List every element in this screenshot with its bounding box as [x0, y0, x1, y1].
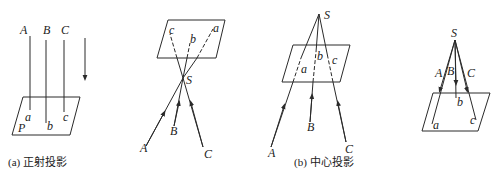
ray-c-arrow-icon — [191, 103, 203, 147]
label-c: c — [332, 53, 338, 67]
ray-b-arrow-icon — [310, 96, 312, 122]
label-B: B — [447, 64, 455, 78]
label-S: S — [451, 26, 457, 40]
label-C: C — [61, 23, 70, 37]
ray-c-arrow-icon — [338, 103, 346, 142]
label-a: a — [25, 110, 31, 124]
label-a: a — [213, 21, 219, 35]
label-A: A — [19, 23, 28, 37]
panel-central-inverted: S A B C a b c — [139, 20, 225, 161]
ray-c-arrow-icon — [455, 40, 467, 90]
label-C: C — [345, 142, 354, 156]
label-C: C — [204, 147, 213, 161]
label-B: B — [307, 120, 315, 134]
label-a: a — [433, 118, 439, 132]
label-b: b — [457, 95, 463, 109]
label-A: A — [434, 66, 443, 80]
ray-a-arrow-icon — [146, 113, 164, 146]
caption-b: (b) 中心投影 — [294, 155, 354, 169]
ray-a-arrow-icon — [271, 106, 284, 147]
label-C: C — [467, 66, 476, 80]
ray-b-arrow-icon — [174, 103, 179, 126]
caption-a: (a) 正射投影 — [8, 155, 67, 169]
label-B: B — [43, 23, 51, 37]
panel-central-perspective: S A B C a b c (b) 中心投影 — [267, 8, 354, 169]
label-c: c — [169, 23, 175, 37]
label-c: c — [63, 110, 69, 124]
label-S: S — [324, 8, 330, 22]
label-S: S — [186, 73, 192, 87]
label-A: A — [267, 146, 276, 160]
label-b: b — [317, 49, 323, 63]
panel-central-diverging: S A B C a b c — [422, 26, 490, 132]
label-P: P — [17, 121, 26, 135]
panel-orthographic: A B C a b c P (a) 正射投影 — [8, 23, 85, 169]
label-B: B — [170, 124, 178, 138]
label-a: a — [301, 62, 307, 76]
label-b: b — [47, 119, 53, 133]
label-c: c — [470, 113, 476, 127]
label-A: A — [139, 141, 148, 155]
label-b: b — [190, 32, 196, 46]
projection-diagram: A B C a b c P (a) 正射投影 S A B C a b c — [0, 0, 498, 183]
